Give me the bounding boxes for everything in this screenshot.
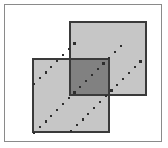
diagonal-dot — [50, 66, 52, 68]
diagonal-dot — [93, 107, 95, 109]
diagonal-dot — [70, 130, 72, 132]
diagonal-dot — [62, 103, 64, 105]
diagonal-dot — [73, 91, 75, 93]
diagonal-dot — [116, 84, 118, 86]
diagonal-dot — [128, 72, 130, 74]
diagonal-dot — [105, 95, 107, 97]
diagonal-dot — [97, 68, 99, 70]
diagonal-dot — [122, 78, 124, 80]
diagonal-dot — [45, 71, 47, 73]
diagonal-dot — [62, 54, 64, 56]
diagonal-dot — [85, 80, 87, 82]
figure-container — [0, 0, 168, 148]
diagonal-dot — [108, 57, 110, 59]
diagonal-dot — [99, 101, 101, 103]
diagonal-dot — [56, 60, 58, 62]
diagonal-dot — [82, 118, 84, 120]
diagonal-dot — [91, 74, 93, 76]
figure-canvas — [0, 0, 168, 148]
diagonal-dot — [68, 97, 70, 99]
diagonal-dot — [73, 42, 75, 44]
diagonal-dot — [76, 124, 78, 126]
diagonal-dot — [120, 45, 122, 47]
diagonal-dot — [79, 86, 81, 88]
diagonal-dot — [102, 62, 104, 64]
diagonal-dot — [110, 89, 112, 91]
diagonal-dot — [50, 115, 52, 117]
diagonal-dot — [45, 120, 47, 122]
diagonal-dot — [139, 60, 141, 62]
diagonal-dot — [33, 132, 35, 134]
diagonal-dot — [87, 113, 89, 115]
diagonal-dot — [39, 77, 41, 79]
diagonal-dot — [134, 66, 136, 68]
diagonal-dot — [56, 109, 58, 111]
diagonal-dot — [39, 126, 41, 128]
diagonal-dot — [68, 48, 70, 50]
diagonal-dot — [114, 51, 116, 53]
diagonal-dot — [33, 83, 35, 85]
